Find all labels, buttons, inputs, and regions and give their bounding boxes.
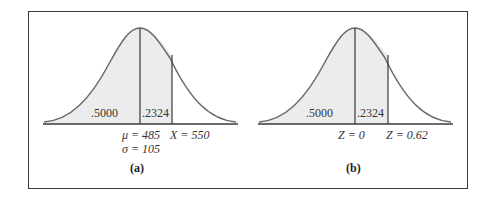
left-area-label-a: .5000 xyxy=(91,107,118,120)
x-value-label: X = 550 xyxy=(170,129,209,142)
caption-b: (b) xyxy=(346,161,361,176)
z-value-label: Z = 0.62 xyxy=(386,129,428,142)
z0-label: Z = 0 xyxy=(338,129,365,142)
left-area-label-b: .5000 xyxy=(306,107,333,120)
mid-area-label-b: .2324 xyxy=(357,107,384,120)
caption-a: (a) xyxy=(130,161,144,176)
mu-label: μ = 485 xyxy=(122,129,160,142)
sigma-label: σ = 105 xyxy=(122,143,160,156)
mid-area-label-a: .2324 xyxy=(142,107,169,120)
normal-curves xyxy=(0,0,487,201)
